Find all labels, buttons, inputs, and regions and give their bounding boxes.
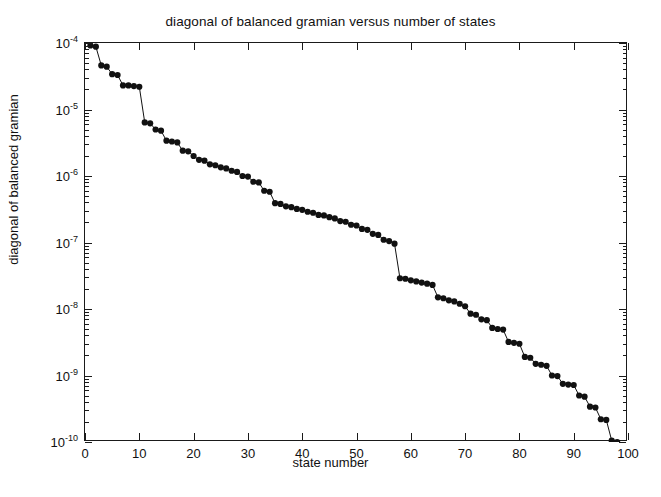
y-axis-minor-tick [85, 410, 89, 411]
data-point-marker [500, 327, 506, 333]
data-point-marker [478, 316, 484, 322]
data-point-marker [93, 44, 99, 50]
y-axis-tick-mark [85, 176, 92, 177]
data-point-marker [321, 212, 327, 218]
x-axis-tick-mark [248, 433, 249, 440]
data-point-marker [201, 158, 207, 164]
data-point-marker [581, 394, 587, 400]
y-axis-tick-label: 10-10 [51, 436, 78, 449]
y-tick-exponent: -7 [70, 234, 78, 244]
y-axis-minor-tick [623, 113, 627, 114]
y-axis-minor-tick [623, 253, 627, 254]
data-point-marker [381, 237, 387, 243]
data-point-marker [505, 339, 511, 345]
data-point-marker [305, 209, 311, 215]
data-point-marker [457, 301, 463, 307]
x-axis-label: state number [0, 455, 661, 470]
y-tick-exponent: -5 [70, 101, 78, 111]
y-axis-minor-tick [85, 253, 89, 254]
y-axis-minor-tick [623, 120, 627, 121]
y-axis-minor-tick [85, 211, 89, 212]
y-axis-minor-tick [623, 179, 627, 180]
data-point-marker [288, 204, 294, 210]
y-axis-minor-tick [623, 186, 627, 187]
data-point-marker [370, 231, 376, 237]
y-axis-minor-tick [623, 89, 627, 90]
y-axis-minor-tick [623, 130, 627, 131]
data-point-marker [538, 362, 544, 368]
y-axis-minor-tick [623, 69, 627, 70]
y-axis-minor-tick [623, 136, 627, 137]
data-point-marker [185, 148, 191, 154]
data-series-line [90, 45, 617, 442]
y-axis-minor-tick [85, 53, 89, 54]
y-axis-minor-tick [623, 335, 627, 336]
y-axis-tick-mark [85, 442, 92, 443]
y-axis-minor-tick [85, 124, 89, 125]
y-tick-exponent: -10 [65, 433, 78, 443]
data-point-marker [109, 71, 115, 77]
y-axis-minor-tick [623, 315, 627, 316]
x-axis-tick-mark [574, 43, 575, 50]
y-tick-exponent: -4 [70, 34, 78, 44]
data-point-marker [603, 417, 609, 423]
y-axis-minor-tick [623, 58, 627, 59]
x-axis-tick-mark [357, 433, 358, 440]
data-point-marker [234, 169, 240, 175]
data-point-marker [120, 82, 126, 88]
y-axis-tick-mark [619, 110, 626, 111]
y-axis-tick-mark [619, 309, 626, 310]
data-point-marker [229, 168, 235, 174]
data-point-marker [609, 437, 615, 442]
data-point-marker [343, 219, 349, 225]
data-point-marker [565, 381, 571, 387]
y-axis-minor-tick [85, 269, 89, 270]
data-point-marker [598, 416, 604, 422]
x-axis-tick-mark [357, 43, 358, 50]
y-axis-minor-tick [623, 386, 627, 387]
y-axis-minor-tick [623, 78, 627, 79]
y-axis-minor-tick [623, 379, 627, 380]
data-point-marker [98, 62, 104, 68]
data-point-marker [391, 241, 397, 247]
data-point-marker [386, 238, 392, 244]
y-axis-minor-tick [623, 182, 627, 183]
x-axis-tick-mark [85, 433, 86, 440]
y-axis-minor-tick [623, 222, 627, 223]
data-point-marker [125, 82, 131, 88]
data-point-marker [489, 325, 495, 331]
y-axis-minor-tick [85, 324, 89, 325]
data-point-marker [207, 161, 213, 167]
data-point-marker [359, 226, 365, 232]
y-axis-minor-tick [85, 312, 89, 313]
y-axis-minor-tick [85, 315, 89, 316]
data-point-marker [310, 210, 316, 216]
y-axis-tick-mark [619, 243, 626, 244]
x-axis-tick-mark [302, 43, 303, 50]
x-axis-tick-mark [194, 43, 195, 50]
y-axis-minor-tick [85, 382, 89, 383]
data-point-marker [522, 354, 528, 360]
data-point-marker [272, 200, 278, 206]
x-axis-tick-mark [519, 43, 520, 50]
plot-area: 10-410-510-610-710-810-910-1001020304050… [84, 42, 627, 441]
y-axis-tick-mark [85, 243, 92, 244]
x-axis-tick-mark [519, 433, 520, 440]
y-axis-minor-tick [623, 396, 627, 397]
y-axis-minor-tick [85, 116, 89, 117]
y-axis-minor-tick [85, 422, 89, 423]
y-axis-minor-tick [85, 63, 89, 64]
data-point-marker [315, 212, 321, 218]
y-axis-minor-tick [85, 390, 89, 391]
y-axis-minor-tick [623, 269, 627, 270]
x-axis-tick-mark [574, 433, 575, 440]
y-axis-tick-label: 10-6 [56, 170, 78, 183]
data-point-marker [104, 64, 110, 70]
data-point-marker [337, 218, 343, 224]
data-point-marker [158, 128, 164, 134]
data-point-marker [169, 138, 175, 144]
y-axis-tick-mark [85, 110, 92, 111]
y-axis-minor-tick [623, 277, 627, 278]
data-point-marker [299, 207, 305, 213]
y-axis-minor-tick [623, 191, 627, 192]
